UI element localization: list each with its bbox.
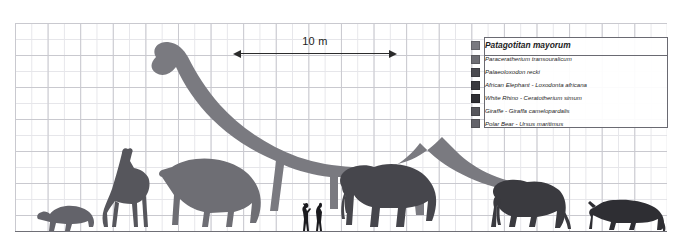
scale-comparison-figure: 10 m Patagotitan mayorum Paraceratherium… xyxy=(0,0,682,249)
silhouette-giraffe xyxy=(98,147,160,233)
silhouette-african-elephant xyxy=(487,175,569,233)
silhouette-palaeoloxodon xyxy=(332,157,440,233)
silhouette-white-rhino xyxy=(588,199,666,233)
silhouette-paraceratherium xyxy=(158,155,268,233)
silhouette-polar-bear xyxy=(36,197,96,233)
silhouette-humans xyxy=(299,201,329,233)
